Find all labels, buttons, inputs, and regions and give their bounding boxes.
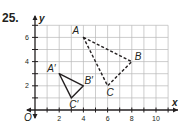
x-axis-title: x: [171, 97, 178, 108]
point-label: A: [71, 25, 79, 36]
y-axis-title: y: [38, 13, 45, 24]
y-tick-label: 4: [25, 58, 29, 65]
origin-label: O: [24, 112, 32, 123]
x-tick-label: 6: [106, 115, 110, 122]
point-label: A′: [46, 63, 57, 74]
point-label: C′: [69, 99, 79, 110]
y-tick-label: 6: [25, 34, 29, 41]
y-axis-arrow-icon: [33, 15, 38, 20]
point-label: B′: [84, 75, 94, 86]
point-label: C: [107, 87, 115, 98]
x-tick-label: 10: [152, 115, 160, 122]
x-tick-label: 2: [57, 115, 61, 122]
point-labels: ABCA′B′C′: [46, 25, 142, 110]
x-axis-arrow-icon: [173, 108, 178, 113]
y-tick-label: 2: [25, 82, 29, 89]
point-label: B: [135, 51, 142, 62]
y-axis-arrow-down-icon: [33, 114, 38, 119]
coordinate-plane: 246810246Oxy ABCA′B′C′: [0, 0, 189, 129]
x-tick-label: 4: [81, 115, 85, 122]
x-tick-label: 8: [130, 115, 134, 122]
